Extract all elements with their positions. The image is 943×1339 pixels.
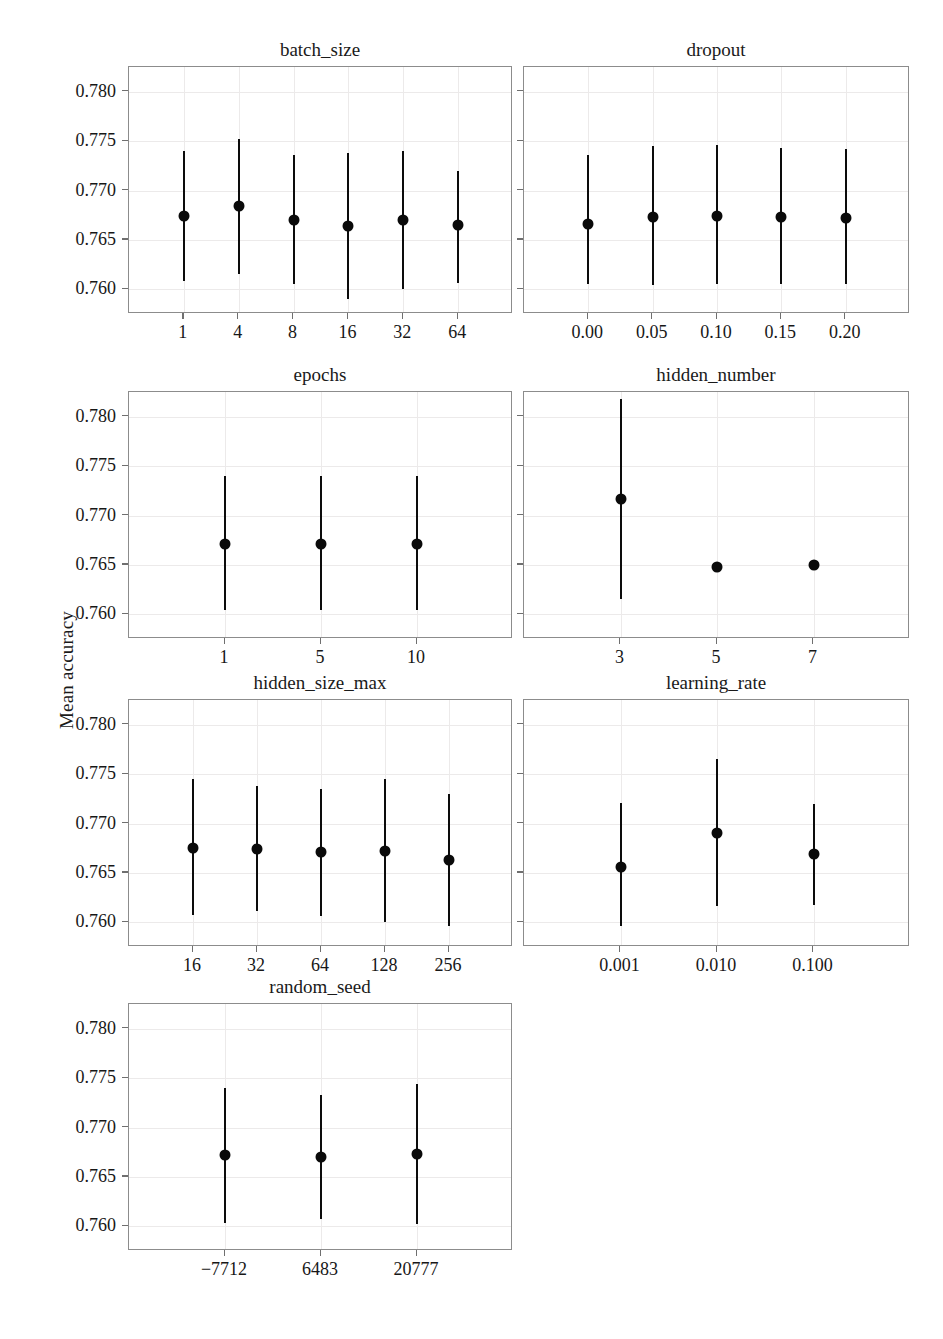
data-point xyxy=(233,201,244,212)
y-tick-mark xyxy=(122,415,128,416)
x-tick-label: 0.010 xyxy=(696,955,737,976)
data-point xyxy=(178,211,189,222)
plot-area xyxy=(523,66,909,313)
panel-epochs: epochs0.7600.7650.7700.7750.7801510 xyxy=(128,391,512,638)
y-tick-mark xyxy=(122,189,128,190)
y-tick-mark xyxy=(517,288,523,289)
data-point xyxy=(615,861,626,872)
x-tick-mark xyxy=(716,313,717,319)
y-tick-label: 0.760 xyxy=(76,603,117,624)
data-point xyxy=(412,1149,423,1160)
y-tick-label: 0.775 xyxy=(76,763,117,784)
x-tick-label: 0.15 xyxy=(765,322,797,343)
x-tick-mark xyxy=(651,313,652,319)
y-tick-mark xyxy=(122,613,128,614)
y-tick-label: 0.775 xyxy=(76,130,117,151)
y-tick-mark xyxy=(517,871,523,872)
x-tick-mark xyxy=(780,313,781,319)
y-tick-label: 0.765 xyxy=(76,1165,117,1186)
data-point xyxy=(380,846,391,857)
y-tick-mark xyxy=(517,140,523,141)
x-tick-label: 64 xyxy=(448,322,466,343)
x-tick-label: 64 xyxy=(311,955,329,976)
data-point xyxy=(808,559,819,570)
y-tick-mark xyxy=(517,921,523,922)
x-tick-mark xyxy=(292,313,293,319)
x-tick-mark xyxy=(587,313,588,319)
x-tick-label: 20777 xyxy=(394,1259,439,1280)
x-tick-mark xyxy=(256,946,257,952)
x-tick-label: 32 xyxy=(393,322,411,343)
x-tick-mark xyxy=(812,946,813,952)
y-tick-mark xyxy=(122,1225,128,1226)
y-tick-mark xyxy=(122,1077,128,1078)
gridline-vertical xyxy=(717,392,718,637)
y-tick-label: 0.775 xyxy=(76,455,117,476)
x-tick-label: 7 xyxy=(808,647,817,668)
x-tick-mark xyxy=(448,946,449,952)
gridline-horizontal xyxy=(129,240,511,241)
plot-area xyxy=(523,699,909,946)
x-tick-mark xyxy=(347,313,348,319)
gridline-horizontal xyxy=(524,614,908,615)
y-tick-mark xyxy=(122,514,128,515)
panel-hidden-size-max: hidden_size_max0.7600.7650.7700.7750.780… xyxy=(128,699,512,946)
data-point xyxy=(412,539,423,550)
y-tick-mark xyxy=(122,822,128,823)
gridline-horizontal xyxy=(524,417,908,418)
x-tick-mark xyxy=(384,946,385,952)
gridline-horizontal xyxy=(129,1029,511,1030)
gridline-horizontal xyxy=(129,725,511,726)
x-tick-label: 256 xyxy=(435,955,462,976)
data-point xyxy=(398,215,409,226)
x-tick-label: 0.10 xyxy=(700,322,732,343)
data-point xyxy=(316,539,327,550)
gridline-horizontal xyxy=(524,141,908,142)
x-tick-mark xyxy=(844,313,845,319)
x-tick-label: 3 xyxy=(615,647,624,668)
y-tick-mark xyxy=(122,238,128,239)
x-tick-label: 16 xyxy=(338,322,356,343)
x-tick-mark xyxy=(416,1250,417,1256)
x-tick-label: 5 xyxy=(712,647,721,668)
data-point xyxy=(188,843,199,854)
x-tick-mark xyxy=(192,946,193,952)
plot-area xyxy=(128,1003,512,1250)
y-tick-label: 0.765 xyxy=(76,553,117,574)
data-point xyxy=(252,844,263,855)
gridline-horizontal xyxy=(129,614,511,615)
x-tick-mark xyxy=(224,1250,225,1256)
panel-random-seed: random_seed0.7600.7650.7700.7750.780−771… xyxy=(128,1003,512,1250)
panel-title: batch_size xyxy=(128,39,512,61)
y-tick-label: 0.775 xyxy=(76,1067,117,1088)
x-tick-label: 8 xyxy=(288,322,297,343)
x-tick-mark xyxy=(402,313,403,319)
x-tick-mark xyxy=(224,638,225,644)
y-tick-mark xyxy=(517,563,523,564)
gridline-horizontal xyxy=(129,774,511,775)
x-tick-label: 0.100 xyxy=(792,955,833,976)
y-tick-label: 0.780 xyxy=(76,713,117,734)
data-point xyxy=(453,220,464,231)
gridline-horizontal xyxy=(524,289,908,290)
y-tick-mark xyxy=(122,773,128,774)
y-tick-mark xyxy=(517,514,523,515)
x-tick-mark xyxy=(716,638,717,644)
plot-area xyxy=(128,699,512,946)
y-tick-mark xyxy=(122,1175,128,1176)
data-point xyxy=(343,221,354,232)
gridline-horizontal xyxy=(524,516,908,517)
panel-title: hidden_number xyxy=(523,364,909,386)
gridline-horizontal xyxy=(129,417,511,418)
panel-title: hidden_size_max xyxy=(128,672,512,694)
y-tick-mark xyxy=(517,238,523,239)
y-tick-label: 0.760 xyxy=(76,278,117,299)
x-tick-label: 1 xyxy=(220,647,229,668)
y-tick-mark xyxy=(122,1126,128,1127)
panel-batch-size: batch_size0.7600.7650.7700.7750.78014816… xyxy=(128,66,512,313)
panel-title: random_seed xyxy=(128,976,512,998)
plot-area xyxy=(128,391,512,638)
x-tick-label: 0.20 xyxy=(829,322,861,343)
gridline-horizontal xyxy=(129,466,511,467)
data-point xyxy=(647,212,658,223)
